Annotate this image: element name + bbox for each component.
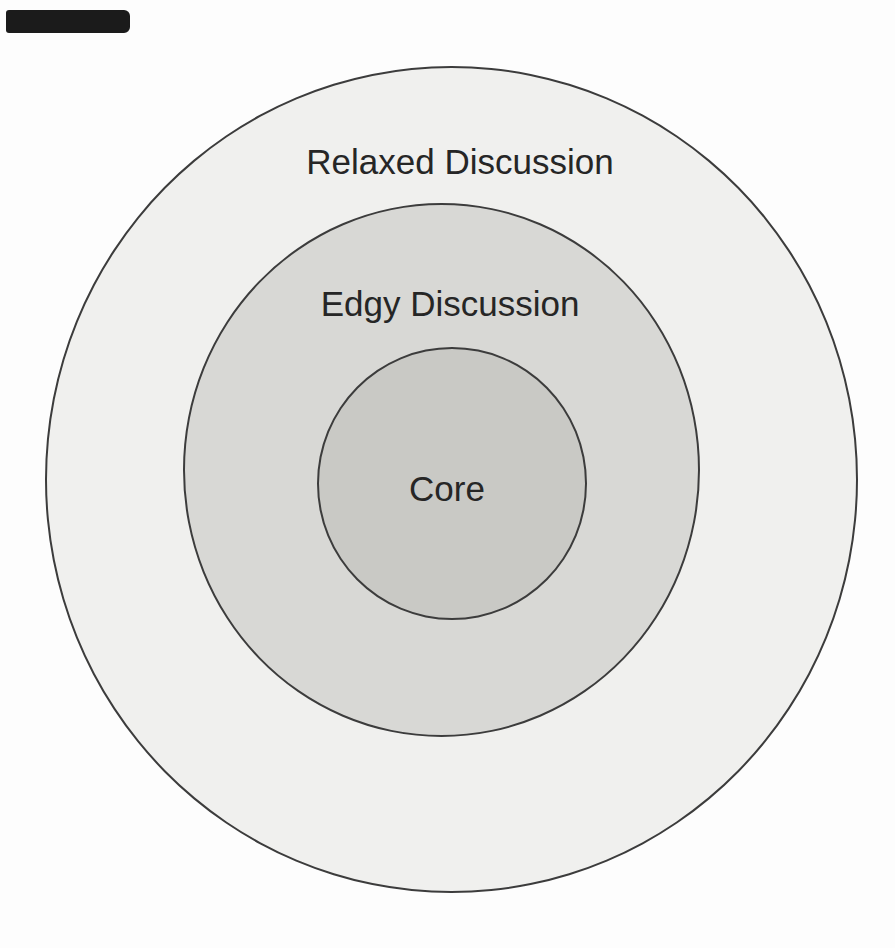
ring-label-edgy-discussion: Edgy Discussion bbox=[321, 282, 580, 326]
ring-label-core: Core bbox=[409, 467, 485, 511]
redaction-bar bbox=[6, 10, 130, 33]
ring-label-relaxed-discussion: Relaxed Discussion bbox=[306, 140, 613, 184]
diagram-canvas: Relaxed Discussion Edgy Discussion Core bbox=[0, 0, 895, 948]
